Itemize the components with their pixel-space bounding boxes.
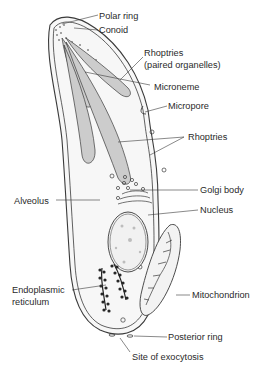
- diagram-stage: Polar ring Conoid Rhoptries (paired orga…: [0, 0, 269, 370]
- label-micropore: Micropore: [168, 101, 209, 111]
- label-polar-ring: Polar ring: [99, 11, 138, 21]
- label-site-of-exocytosis: Site of exocytosis: [132, 352, 204, 362]
- label-alveolus: Alveolus: [14, 196, 49, 206]
- label-rhoptries-paired-line1: Rhoptries: [144, 48, 183, 58]
- label-golgi-body: Golgi body: [200, 185, 244, 195]
- label-mitochondrion: Mitochondrion: [192, 290, 250, 300]
- label-rhoptries: Rhoptries: [188, 132, 227, 142]
- nucleus: [108, 212, 148, 272]
- label-endoplasmic-line1: Endoplasmic: [12, 285, 65, 295]
- label-nucleus: Nucleus: [200, 205, 233, 215]
- label-posterior-ring: Posterior ring: [168, 332, 223, 342]
- label-conoid: Conoid: [99, 25, 128, 35]
- label-rhoptries-paired-line2: (paired organelles): [144, 60, 221, 70]
- label-microneme: Microneme: [154, 82, 199, 92]
- label-endoplasmic-line2: reticulum: [12, 297, 49, 307]
